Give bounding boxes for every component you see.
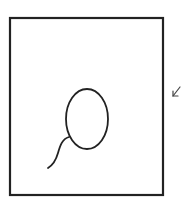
- frame-rectangle: [10, 18, 163, 195]
- arrow-down-left-icon: [173, 87, 180, 96]
- loop-tail-curve: [48, 137, 69, 168]
- loop-ellipse: [66, 89, 108, 149]
- sketch-canvas: [0, 0, 181, 209]
